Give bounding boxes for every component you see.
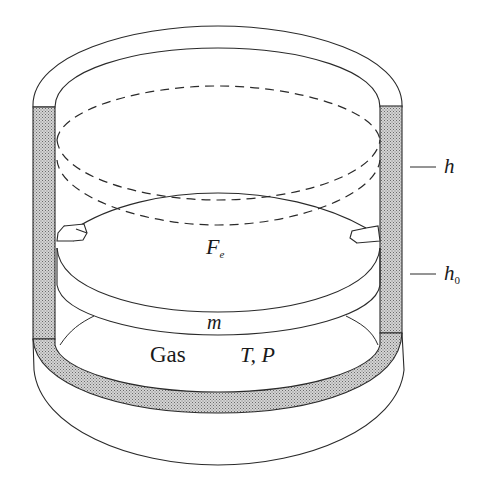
label-h0-main: h <box>444 261 455 285</box>
label-temperature-pressure: T, P <box>240 342 275 368</box>
label-gas: Gas <box>150 342 186 368</box>
label-mass: m <box>207 311 221 334</box>
piston-position-h <box>57 86 380 225</box>
label-h: h <box>444 154 455 179</box>
cylinder-diagram <box>0 0 486 483</box>
cylinder-top-rim <box>33 26 402 107</box>
label-fe-sub: e <box>219 248 224 260</box>
bottom-wall <box>33 333 402 413</box>
label-h0-sub: 0 <box>455 274 461 286</box>
label-h0: h0 <box>444 261 460 286</box>
label-fe-main: F <box>206 234 219 259</box>
left-stop <box>57 224 87 241</box>
right-stop <box>350 226 380 243</box>
right-wall <box>380 106 402 333</box>
left-wall <box>33 107 55 339</box>
label-fe: Fe <box>206 234 224 260</box>
